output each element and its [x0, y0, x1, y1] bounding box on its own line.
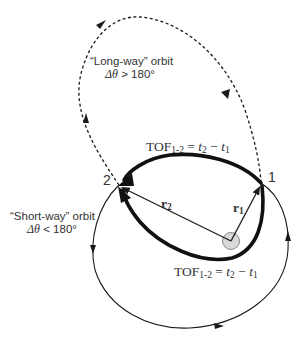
short-way-arrow-bottom-icon [214, 323, 224, 329]
short-way-arrow-right-icon [285, 231, 291, 241]
long-way-arrow-right-icon [221, 89, 230, 99]
r2-vector [125, 189, 231, 241]
long-way-label: “Long-way” orbit Δθ > 180° [90, 55, 170, 82]
long-way-arrow-top-icon [96, 20, 106, 29]
short-way-arrow-left-icon [90, 245, 96, 254]
tof-bottom-label: TOF1-2 = t2 − t1 [174, 264, 258, 280]
r2-label: r2 [161, 196, 172, 212]
tof-top-label: TOF1-2 = t2 − t1 [146, 139, 230, 155]
long-way-arrow-left-icon [83, 113, 89, 123]
long-way-orbit-path [79, 17, 261, 185]
orbit-diagram [0, 0, 301, 340]
transfer-arc-bottom-arrow-icon [118, 186, 131, 203]
r1-label: r1 [233, 200, 244, 216]
short-way-label: “Short-way” orbit Δθ < 180° [10, 210, 94, 237]
point-1-label: 1 [268, 169, 276, 185]
transfer-arc-top [124, 154, 261, 183]
point-2-label: 2 [103, 172, 111, 188]
